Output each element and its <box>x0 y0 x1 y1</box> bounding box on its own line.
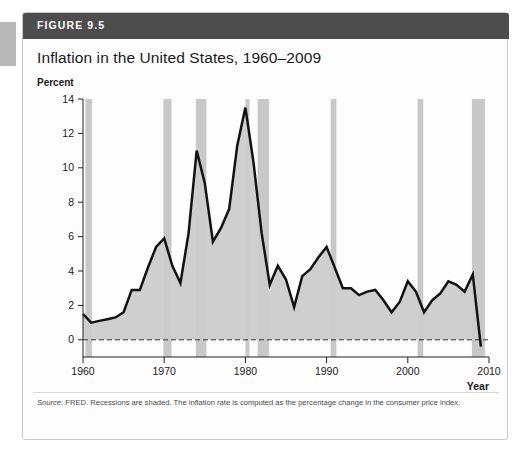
inflation-line-chart: 02468101214196019701980199020002010Year <box>31 91 501 401</box>
x-tick-label: 1970 <box>153 365 177 377</box>
figure-title: Inflation in the United States, 1960–200… <box>37 49 321 67</box>
figure-card: FIGURE 9.5 Inflation in the United State… <box>22 12 508 440</box>
x-tick-label: 1980 <box>234 365 258 377</box>
x-axis-title: Year <box>467 380 489 392</box>
x-tick-label: 2010 <box>477 365 501 377</box>
chart-plot-area: 02468101214196019701980199020002010Year <box>31 91 501 401</box>
source-note: Source: FRED. Recessions are shaded. The… <box>37 397 493 408</box>
y-tick-label: 12 <box>62 127 74 139</box>
source-label: Source: <box>37 398 63 407</box>
y-tick-label: 8 <box>68 196 74 208</box>
y-tick-label: 0 <box>68 333 74 345</box>
figure-page: FIGURE 9.5 Inflation in the United State… <box>0 0 530 458</box>
y-tick-label: 10 <box>62 161 74 173</box>
y-tick-label: 14 <box>62 93 74 105</box>
x-tick-label: 1960 <box>71 365 95 377</box>
y-tick-label: 6 <box>68 230 74 242</box>
x-tick-label: 1990 <box>315 365 339 377</box>
y-tick-label: 2 <box>68 299 74 311</box>
page-edge-bar <box>0 22 16 66</box>
source-body: FRED. Recessions are shaded. The inflati… <box>63 398 460 407</box>
source-divider <box>33 392 499 393</box>
x-tick-label: 2000 <box>396 365 420 377</box>
figure-number-label: FIGURE 9.5 <box>37 19 105 31</box>
figure-header-bar: FIGURE 9.5 <box>23 13 509 39</box>
y-tick-label: 4 <box>68 265 74 277</box>
y-axis-unit-label: Percent <box>37 77 74 88</box>
